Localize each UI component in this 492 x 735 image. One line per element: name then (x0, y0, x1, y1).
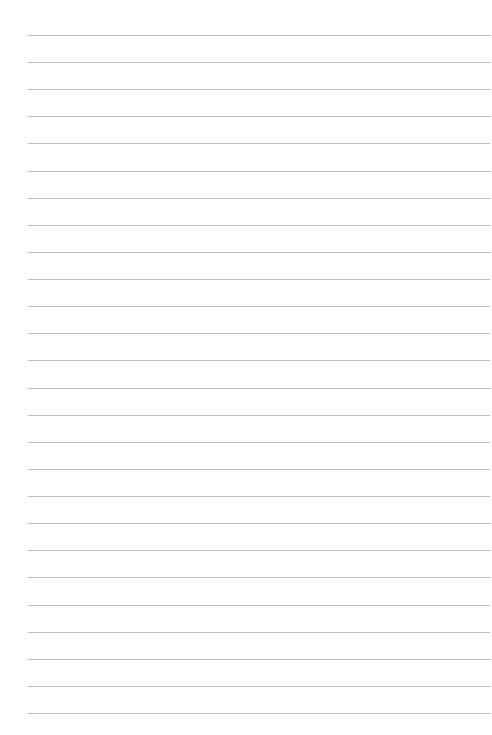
ruled-line (28, 89, 490, 90)
ruled-line (28, 659, 490, 660)
ruled-line (28, 550, 490, 551)
ruled-line (28, 333, 490, 334)
ruled-line (28, 496, 490, 497)
ruled-line (28, 62, 490, 63)
ruled-line (28, 143, 490, 144)
lined-paper-page (0, 0, 492, 735)
ruled-line (28, 415, 490, 416)
ruled-line (28, 442, 490, 443)
ruled-line (28, 252, 490, 253)
ruled-line (28, 686, 490, 687)
ruled-line (28, 116, 490, 117)
ruled-line (28, 198, 490, 199)
ruled-line (28, 523, 490, 524)
ruled-line (28, 306, 490, 307)
ruled-line (28, 360, 490, 361)
ruled-line (28, 605, 490, 606)
ruled-line (28, 577, 490, 578)
ruled-line (28, 35, 490, 36)
ruled-line (28, 632, 490, 633)
ruled-line (28, 225, 490, 226)
ruled-line (28, 171, 490, 172)
ruled-line (28, 469, 490, 470)
ruled-line (28, 713, 490, 714)
ruled-line (28, 388, 490, 389)
ruled-line (28, 279, 490, 280)
